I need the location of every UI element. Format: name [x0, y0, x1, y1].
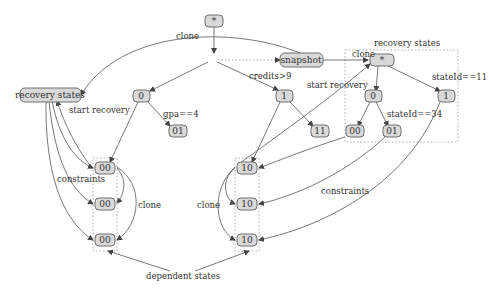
svg-text:recovery states: recovery states: [15, 90, 85, 100]
svg-text:00: 00: [99, 235, 111, 245]
dependent-node-00-b: 00: [95, 198, 115, 210]
label-constraints-right: constraints: [321, 186, 369, 196]
state-tree-diagram: * snapshot recovery states 0 01 1 11 * 0…: [0, 0, 489, 296]
node-recovery-00: 00: [346, 125, 364, 137]
label-clone-mid: clone: [197, 200, 220, 210]
node-01: 01: [169, 125, 187, 137]
dependent-node-10-b: 10: [237, 198, 257, 210]
svg-text:01: 01: [172, 126, 183, 136]
label-dependent-states: dependent states: [146, 271, 220, 281]
node-snapshot: snapshot: [280, 53, 323, 67]
label-clone-top: clone: [176, 31, 199, 41]
node-root: *: [205, 15, 223, 27]
svg-text:snapshot: snapshot: [281, 55, 322, 65]
svg-text:00: 00: [99, 199, 111, 209]
svg-text:*: *: [212, 16, 217, 26]
node-1: 1: [276, 90, 293, 102]
node-11: 11: [311, 125, 329, 137]
node-recovery-states: recovery states: [15, 88, 85, 102]
label-credits: credits>9: [249, 71, 291, 81]
node-recovery-0: 0: [365, 90, 382, 102]
svg-text:*: *: [380, 55, 385, 65]
dependent-node-10-a: 10: [237, 162, 257, 174]
svg-text:11: 11: [314, 126, 325, 136]
node-recovery-01: 01: [383, 125, 401, 137]
label-start-recovery-right: start recovery: [307, 80, 368, 90]
svg-text:00: 00: [99, 163, 111, 173]
label-constraints-left: constraints: [57, 174, 105, 184]
svg-text:0: 0: [370, 91, 376, 101]
dependent-node-00-a: 00: [95, 162, 115, 174]
dependent-node-10-c: 10: [237, 234, 257, 246]
label-stateid-11: stateId==11: [432, 72, 487, 82]
node-0: 0: [133, 90, 150, 102]
label-gpa: gpa==4: [163, 109, 199, 119]
svg-text:01: 01: [386, 126, 397, 136]
svg-text:10: 10: [241, 163, 253, 173]
label-recovery-states-box: recovery states: [374, 38, 440, 48]
svg-text:10: 10: [241, 199, 253, 209]
label-stateid-34: stateId==34: [387, 109, 442, 119]
svg-text:1: 1: [443, 91, 449, 101]
label-start-recovery-left: start recovery: [69, 105, 130, 115]
node-recovery-1: 1: [438, 90, 455, 102]
svg-text:00: 00: [349, 126, 361, 136]
svg-text:10: 10: [241, 235, 253, 245]
svg-text:1: 1: [281, 91, 287, 101]
svg-text:0: 0: [138, 91, 144, 101]
label-clone-left: clone: [138, 200, 161, 210]
dependent-node-00-c: 00: [95, 234, 115, 246]
label-clone-right: clone: [352, 49, 375, 59]
